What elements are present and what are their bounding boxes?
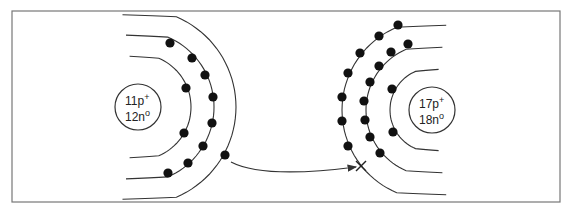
- electron-dot-icon: [200, 70, 209, 79]
- electron-dot-icon: [183, 158, 192, 167]
- electron-dot-icon: [374, 31, 383, 40]
- electron-dot-icon: [179, 128, 188, 137]
- electron-dot-icon: [220, 150, 229, 159]
- electron-dot-icon: [337, 116, 346, 125]
- electron-dot-icon: [163, 168, 172, 177]
- electron-dot-icon: [365, 132, 374, 141]
- electron-dot-icon: [388, 127, 397, 136]
- electron-dot-icon: [208, 92, 217, 101]
- diagram-frame: [12, 11, 560, 202]
- electron-dot-icon: [359, 96, 368, 105]
- electron-dot-icon: [198, 141, 207, 150]
- electron-dot-icon: [387, 84, 396, 93]
- electron-dot-icon: [393, 20, 402, 29]
- electron-dot-icon: [365, 77, 374, 86]
- electron-dot-icon: [355, 48, 364, 57]
- electron-dot-icon: [337, 92, 346, 101]
- electron-transfer-arrow: [231, 162, 356, 172]
- electron-dot-icon: [386, 47, 395, 56]
- electron-target-x-icon: [356, 161, 366, 171]
- ionic-bond-diagram: 11p+12no 17p+18no: [0, 0, 568, 212]
- electron-dot-icon: [343, 141, 352, 150]
- electron-dot-icon: [207, 118, 216, 127]
- electron-dot-icon: [343, 68, 352, 77]
- electron-dot-icon: [374, 61, 383, 70]
- chlorine-atom: 17p+18no: [337, 20, 455, 194]
- electron-dot-icon: [375, 148, 384, 157]
- electron-dot-icon: [165, 38, 174, 47]
- sodium-atom: 11p+12no: [115, 15, 236, 199]
- electron-dot-icon: [403, 39, 412, 48]
- electron-dot-icon: [181, 83, 190, 92]
- electron-dot-icon: [360, 115, 369, 124]
- electron-dot-icon: [187, 53, 196, 62]
